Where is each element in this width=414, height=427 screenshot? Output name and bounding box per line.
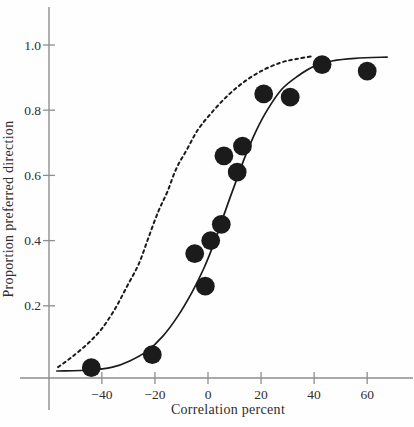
y-axis-title: Proportion preferred direction xyxy=(1,121,16,298)
x-axis-title: Correlation percent xyxy=(171,402,285,417)
data-point xyxy=(233,137,252,156)
data-point xyxy=(254,85,273,104)
y-tick-label: 1.0 xyxy=(24,38,41,53)
dashed-sigmoid-curve xyxy=(58,56,312,367)
x-tick-label: 0 xyxy=(205,387,212,402)
data-point xyxy=(201,231,220,250)
x-tick-label: 60 xyxy=(360,387,374,402)
scatter-plot-figure: 0.20.40.60.81.0−40−200204060 Correlation… xyxy=(0,0,414,427)
x-tick-label: 40 xyxy=(307,387,321,402)
data-point xyxy=(143,345,162,364)
y-tick-label: 0.8 xyxy=(24,103,41,118)
data-point xyxy=(281,88,300,107)
data-point xyxy=(358,62,377,81)
plot-content: 0.20.40.60.81.0−40−200204060 xyxy=(24,38,387,403)
data-point xyxy=(82,358,101,377)
data-point xyxy=(215,146,234,165)
data-point xyxy=(313,55,332,74)
x-tick-label: −20 xyxy=(144,387,165,402)
x-tick-label: 20 xyxy=(254,387,268,402)
plot-canvas: 0.20.40.60.81.0−40−200204060 Correlation… xyxy=(0,0,414,427)
x-tick-label: −40 xyxy=(91,387,112,402)
y-tick-label: 0.4 xyxy=(24,233,41,248)
data-point xyxy=(212,215,231,234)
data-point xyxy=(185,244,204,263)
data-point xyxy=(196,277,215,296)
y-tick-label: 0.2 xyxy=(24,298,41,313)
data-point xyxy=(228,163,247,182)
y-tick-label: 0.6 xyxy=(24,168,41,183)
